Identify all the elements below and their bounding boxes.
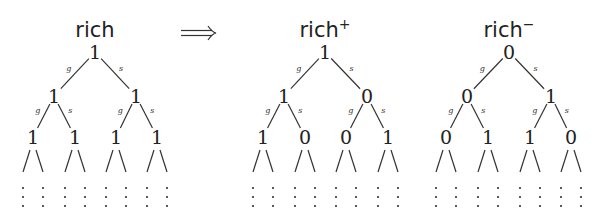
level2-node: 0: [440, 126, 452, 148]
tree-rich-minus: rich−0010110gsgsgs: [435, 16, 582, 207]
level2-node: 1: [257, 126, 269, 148]
continuation-dot: [64, 187, 66, 189]
continuation-dot: [314, 187, 316, 189]
continuation-dot: [294, 187, 296, 189]
leaf-edge: [253, 150, 260, 172]
leaf-edge: [23, 150, 30, 172]
continuation-dot: [105, 205, 107, 207]
leaf-edge: [491, 150, 498, 172]
continuation-dot: [455, 187, 457, 189]
continuation-dot: [314, 205, 316, 207]
continuation-dot: [539, 196, 541, 198]
continuation-dot: [335, 196, 337, 198]
leaf-edge: [533, 150, 540, 172]
continuation-dot: [252, 205, 254, 207]
continuation-dot: [294, 196, 296, 198]
leaf-edge: [78, 150, 85, 172]
tree-title: rich: [75, 18, 114, 42]
continuation-dot: [539, 187, 541, 189]
continuation-dot: [314, 196, 316, 198]
continuation-dot: [294, 205, 296, 207]
continuation-dot: [477, 196, 479, 198]
continuation-dot: [22, 196, 24, 198]
continuation-dot: [560, 187, 562, 189]
continuation-dot: [497, 205, 499, 207]
continuation-dot: [64, 205, 66, 207]
continuation-dot: [455, 196, 457, 198]
continuation-dot: [397, 205, 399, 207]
continuation-dot: [377, 205, 379, 207]
level2-node: 0: [565, 126, 577, 148]
edge-label-s: s: [381, 106, 385, 115]
edge-label-s: s: [298, 106, 302, 115]
leaf-edge: [36, 150, 43, 172]
continuation-dot: [105, 187, 107, 189]
arrow-head: [208, 26, 216, 40]
continuation-dot: [580, 187, 582, 189]
root-node: 1: [89, 41, 101, 63]
continuation-dot: [272, 205, 274, 207]
continuation-dot: [252, 196, 254, 198]
continuation-dot: [42, 196, 44, 198]
leaf-edge: [106, 150, 113, 172]
continuation-dot: [519, 187, 521, 189]
title-superscript: +: [339, 16, 351, 32]
leaf-edge: [266, 150, 273, 172]
level2-node: 1: [110, 126, 122, 148]
continuation-dot: [42, 187, 44, 189]
edge-label-g: g: [348, 106, 353, 115]
level2-node: 1: [482, 126, 494, 148]
tree-rich: rich1111111gsgsgs: [22, 18, 168, 207]
leaf-edge: [349, 150, 356, 172]
continuation-dot: [64, 196, 66, 198]
level2-node: 0: [299, 126, 311, 148]
leaf-edge: [147, 150, 154, 172]
continuation-dot: [146, 187, 148, 189]
continuation-dot: [105, 196, 107, 198]
tree-title: rich+: [299, 16, 350, 42]
title-superscript: −: [523, 16, 535, 32]
implies-arrow-icon: [181, 26, 216, 40]
continuation-dot: [455, 205, 457, 207]
continuation-dot: [22, 205, 24, 207]
edge-label-s: s: [119, 64, 123, 73]
continuation-dot: [272, 187, 274, 189]
leaf-edge: [295, 150, 302, 172]
continuation-dot: [519, 205, 521, 207]
tree-edge-s: [515, 59, 544, 89]
continuation-dot: [477, 187, 479, 189]
level2-node: 1: [151, 126, 163, 148]
tree-edge-s: [101, 59, 129, 89]
diagram-canvas: rich1111111gsgsgsrich+1101001gsgsgsrich−…: [0, 0, 601, 221]
continuation-dot: [146, 196, 148, 198]
continuation-dot: [166, 187, 168, 189]
leaf-edge: [520, 150, 527, 172]
leaf-edge: [561, 150, 568, 172]
continuation-dot: [435, 196, 437, 198]
level2-node: 1: [382, 126, 394, 148]
continuation-dot: [252, 187, 254, 189]
continuation-dot: [560, 205, 562, 207]
continuation-dot: [272, 196, 274, 198]
level1-node: 0: [461, 85, 473, 107]
level1-node: 1: [130, 85, 142, 107]
continuation-dot: [435, 205, 437, 207]
leaf-edge: [160, 150, 167, 172]
edge-label-s: s: [350, 64, 354, 73]
edge-label-g: g: [66, 64, 71, 73]
leaf-edge: [478, 150, 485, 172]
continuation-dot: [335, 205, 337, 207]
continuation-dot: [335, 187, 337, 189]
continuation-dot: [125, 205, 127, 207]
continuation-dot: [580, 196, 582, 198]
continuation-dot: [397, 187, 399, 189]
continuation-dot: [519, 196, 521, 198]
edge-label-s: s: [150, 106, 154, 115]
root-node: 1: [319, 41, 331, 63]
leaf-edge: [574, 150, 581, 172]
leaf-edge: [391, 150, 398, 172]
level1-node: 1: [48, 85, 60, 107]
leaf-edge: [308, 150, 315, 172]
edge-label-g: g: [480, 64, 485, 73]
level1-node: 1: [545, 85, 557, 107]
